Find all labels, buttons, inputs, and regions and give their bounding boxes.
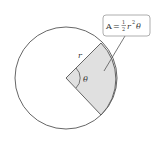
formula-fraction-denominator: 2 — [122, 26, 125, 32]
formula-equals: = — [113, 22, 120, 31]
formula-theta: θ — [136, 22, 141, 31]
formula-lhs: A — [105, 22, 112, 31]
angle-label: θ — [83, 75, 88, 84]
shaded-sector — [66, 43, 116, 115]
formula-fraction-numerator: 1 — [122, 19, 125, 25]
radius-label: r — [78, 51, 83, 60]
sector-diagram: r θ A = 1 2 r 2 θ — [0, 0, 168, 143]
formula-exponent: 2 — [132, 19, 135, 25]
